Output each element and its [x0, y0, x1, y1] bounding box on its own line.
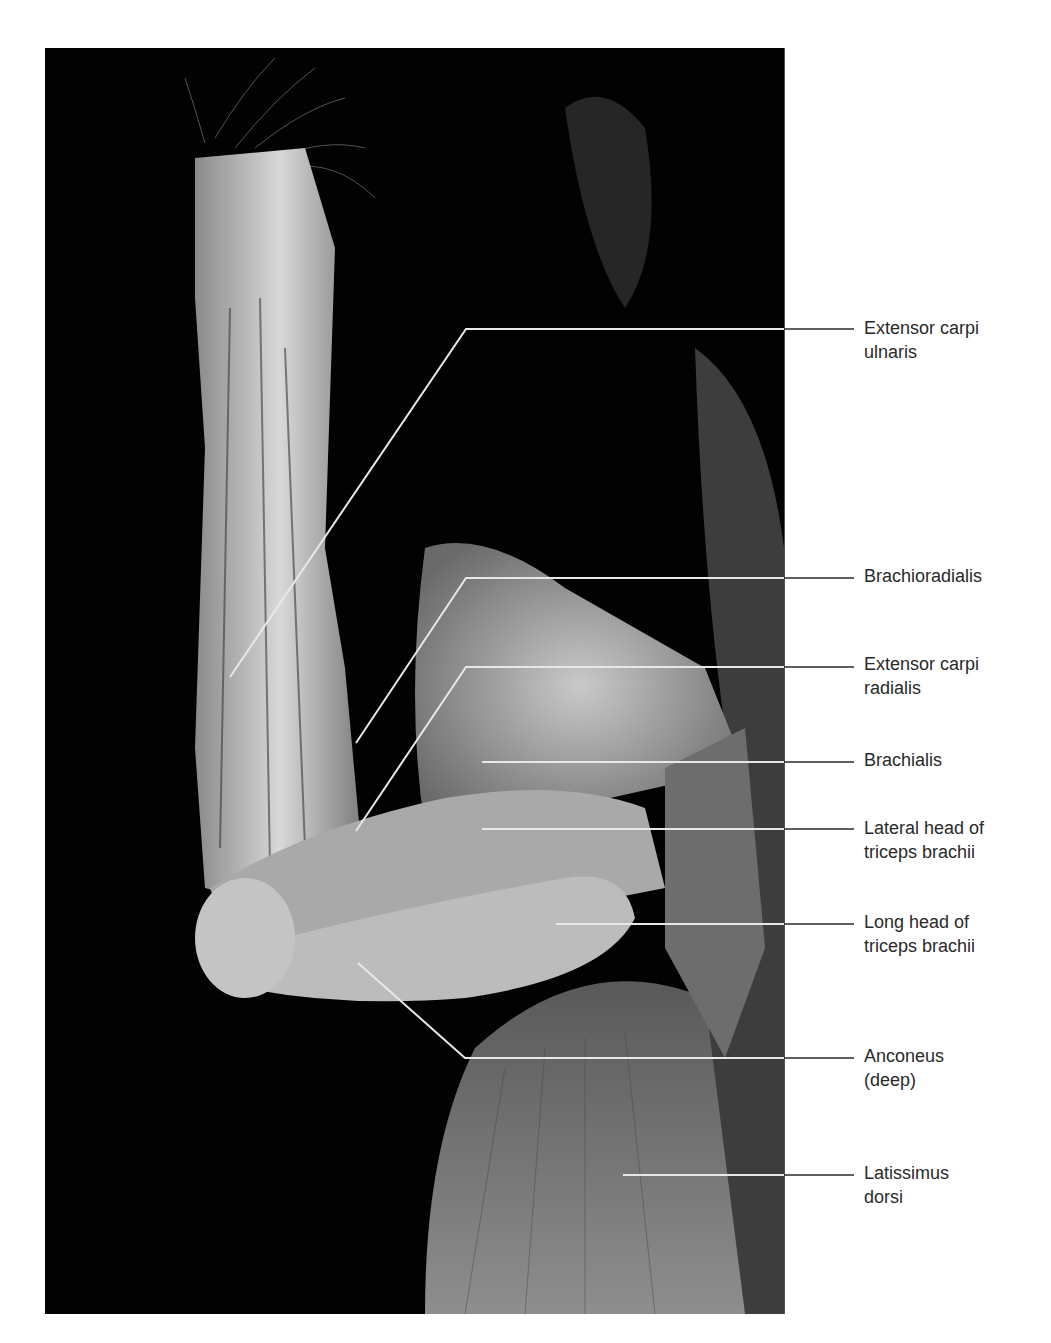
- label-line: Anconeus: [864, 1044, 944, 1068]
- label-line: triceps brachii: [864, 840, 984, 864]
- arm-muscle-illustration: [45, 48, 784, 1314]
- label-line: (deep): [864, 1068, 944, 1092]
- dissection-photo: [45, 48, 785, 1314]
- label-line: Latissimus: [864, 1161, 949, 1185]
- label-line: Long head of: [864, 910, 975, 934]
- label-line: Extensor carpi: [864, 316, 979, 340]
- label-line: ulnaris: [864, 340, 979, 364]
- label-line: Extensor carpi: [864, 652, 979, 676]
- label-extensor-carpi-ulnaris: Extensor carpi ulnaris: [864, 316, 979, 364]
- label-line: triceps brachii: [864, 934, 975, 958]
- label-line: Brachioradialis: [864, 564, 982, 588]
- label-line: Lateral head of: [864, 816, 984, 840]
- label-latissimus-dorsi: Latissimus dorsi: [864, 1161, 949, 1209]
- label-anconeus: Anconeus (deep): [864, 1044, 944, 1092]
- label-brachioradialis: Brachioradialis: [864, 564, 982, 588]
- label-long-head-triceps: Long head of triceps brachii: [864, 910, 975, 958]
- label-line: dorsi: [864, 1185, 949, 1209]
- label-line: radialis: [864, 676, 979, 700]
- label-lateral-head-triceps: Lateral head of triceps brachii: [864, 816, 984, 864]
- label-extensor-carpi-radialis: Extensor carpi radialis: [864, 652, 979, 700]
- label-line: Brachialis: [864, 748, 942, 772]
- label-brachialis: Brachialis: [864, 748, 942, 772]
